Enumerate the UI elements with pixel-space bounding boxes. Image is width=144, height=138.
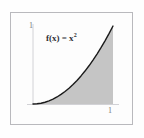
function-annotation: f(x) = x2 <box>46 34 77 43</box>
plot-area <box>0 0 144 138</box>
function-annotation-exponent: 2 <box>74 32 77 38</box>
figure-container: 1 1 f(x) = x2 <box>0 0 144 138</box>
function-annotation-base: f(x) = x <box>46 33 74 43</box>
x-axis-tick-label-1: 1 <box>108 107 112 115</box>
y-axis-tick-label-1: 1 <box>29 22 33 30</box>
